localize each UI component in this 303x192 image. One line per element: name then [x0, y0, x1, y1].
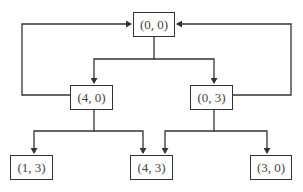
node-1-3: (1, 3) — [10, 155, 53, 180]
edge-root-to-4-0 — [94, 37, 154, 83]
edge-root-to-0-3 — [154, 59, 214, 83]
node-0-3: (0, 3) — [190, 85, 233, 110]
edge-4-0-to-4-3 — [94, 131, 143, 153]
node-4-3: (4, 3) — [130, 155, 173, 180]
node-4-0: (4, 0) — [70, 85, 113, 110]
node-3-0: (3, 0) — [250, 155, 292, 180]
edge-4-0-to-1-3 — [34, 110, 94, 153]
node-root: (0, 0) — [133, 12, 175, 37]
edge-0-3-to-3-0 — [214, 131, 267, 153]
edge-0-3-to-4-3 — [165, 110, 214, 153]
